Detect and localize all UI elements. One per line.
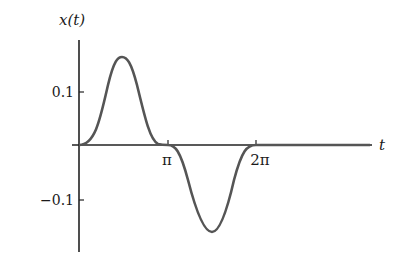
x-axis-label: t bbox=[379, 136, 386, 154]
y-axis-label: x(t) bbox=[59, 11, 85, 29]
chart-figure: x(t) t 0.1 −0.1 π 2π bbox=[0, 0, 393, 271]
y-tick-label-neg: −0.1 bbox=[40, 192, 74, 208]
y-tick-label-pos: 0.1 bbox=[52, 84, 74, 100]
chart-canvas: x(t) t 0.1 −0.1 π 2π bbox=[0, 0, 393, 271]
x-tick-label-pi: π bbox=[162, 151, 172, 169]
x-tick-label-2pi: 2π bbox=[250, 151, 270, 169]
